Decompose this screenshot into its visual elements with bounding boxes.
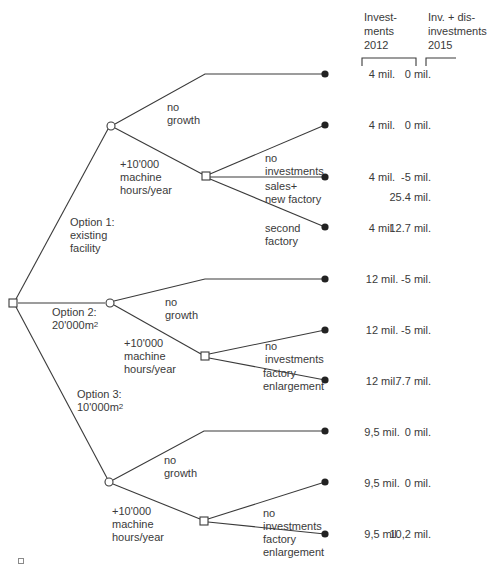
root-decision-node — [9, 299, 17, 307]
opt3-growth-label: +10'000 machine hours/year — [112, 505, 164, 544]
bracket-investments-2012 — [362, 58, 416, 66]
opt1-second-factory-label: second factory — [265, 222, 300, 248]
option-3-label-line1: Option 3: — [77, 388, 122, 400]
outcome-inv-2015: -5 mil. — [373, 324, 431, 337]
option-3-label-line2: 10'000m — [77, 401, 119, 413]
option-3-label: Option 3: 10'000m2 — [77, 388, 123, 415]
opt3-no-investments-label: no investments — [263, 507, 322, 533]
leaf-node — [321, 326, 328, 333]
bracket-inv-2015 — [426, 58, 456, 66]
opt3-no-growth-label: no growth — [164, 454, 197, 480]
option-2-label-line1: Option 2: — [52, 306, 97, 318]
outcome-inv-2015: 0 mil. — [373, 68, 431, 81]
opt1-no-investments-label: no investments — [265, 152, 324, 178]
opt2-sub-decision-node — [201, 352, 209, 360]
outcome-inv-2015: 0 mil. — [373, 119, 431, 132]
leaf-node — [321, 121, 328, 128]
opt3-chance-node — [105, 478, 113, 486]
leaf-node — [321, 223, 328, 230]
outcome-inv-2015: 10,2 mil. — [373, 528, 431, 541]
option-2-label-sup: 2 — [94, 320, 98, 329]
outcome-inv-2015: 12.7 mil. — [373, 222, 431, 235]
outcome-inv-2015: 0 mil. — [373, 477, 431, 490]
outcome-inv-2015-extra: 25.4 mil. — [373, 191, 431, 204]
opt2-growth-label: +10'000 machine hours/year — [124, 337, 176, 376]
leaf-node — [321, 70, 328, 77]
opt2-chance-node — [106, 299, 114, 307]
opt3-sub-decision-node — [200, 517, 208, 525]
header-inv-disinvestments-2015: Inv. + dis- investments 2015 — [428, 10, 487, 52]
opt1-no-growth-label: no growth — [167, 101, 200, 127]
outcome-inv-2015: -5 mil. — [373, 171, 431, 184]
option-2-label: Option 2: 20'000m2 — [52, 306, 98, 333]
opt1-chance-node — [107, 122, 115, 130]
opt3-factory-enlargement-label: factory enlargement — [263, 533, 324, 559]
outcome-inv-2015: 0 mil. — [373, 426, 431, 439]
edge-opt3-no-growth — [113, 431, 325, 480]
opt2-no-investments-label: no investments — [265, 340, 324, 366]
opt2-no-growth-label: no growth — [165, 296, 198, 322]
leaf-node — [321, 478, 328, 485]
edge-option-1 — [16, 129, 108, 299]
leaf-node — [321, 427, 328, 434]
opt2-factory-enlargement-label: factory enlargement — [263, 367, 324, 393]
option-1-label: Option 1: existing facility — [70, 216, 115, 255]
option-3-label-sup: 2 — [119, 402, 123, 411]
outcome-inv-2015: 7.7 mil. — [373, 375, 431, 388]
leaf-node — [321, 275, 328, 282]
header-investments-2012: Invest- ments 2012 — [364, 10, 397, 52]
opt1-sales-new-factory-label: sales+ new factory — [265, 180, 321, 206]
edge-opt1-no-growth — [115, 74, 325, 124]
opt1-sub-decision-node — [202, 172, 210, 180]
outcome-inv-2015: -5 mil. — [373, 273, 431, 286]
option-2-label-line2: 20'000m — [52, 319, 94, 331]
legend-square-icon — [18, 558, 24, 564]
opt1-growth-label: +10'000 machine hours/year — [120, 158, 172, 197]
edge-opt2-no-growth — [114, 279, 325, 301]
